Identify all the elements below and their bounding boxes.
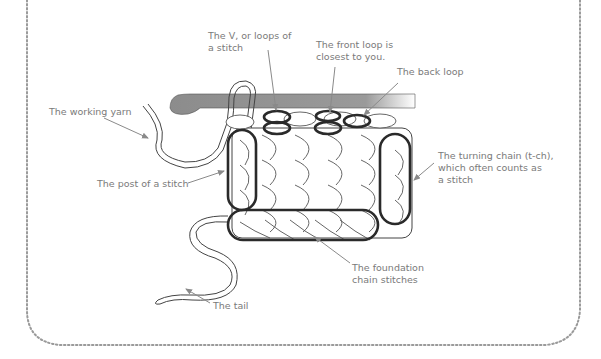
yarn-tail: [155, 216, 237, 304]
label-front-loop: The front loop is closest to you.: [316, 39, 393, 63]
label-turning-chain: The turning chain (t-ch), which often co…: [438, 150, 553, 186]
label-foundation: The foundation chain stitches: [352, 262, 424, 286]
label-working-yarn: The working yarn: [49, 106, 132, 118]
diagram-frame: The V, or loops of a stitch The front lo…: [0, 0, 601, 359]
label-back-loop: The back loop: [397, 66, 464, 78]
label-post: The post of a stitch: [97, 178, 189, 190]
label-v-loops: The V, or loops of a stitch: [208, 30, 291, 54]
crochet-hook: [170, 94, 415, 114]
label-tail: The tail: [213, 300, 249, 312]
